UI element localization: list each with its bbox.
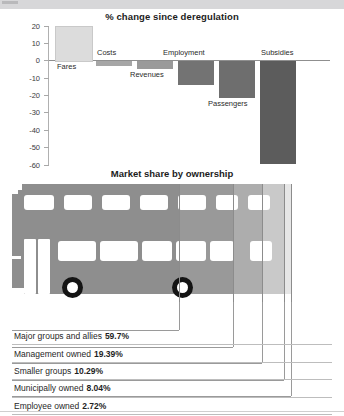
segment-divider — [291, 184, 292, 302]
legend-item-employee-owned: Employee owned 2.72% — [12, 398, 332, 415]
segment-divider — [233, 184, 234, 302]
y-tick-label: 10 — [14, 39, 40, 48]
scan-edge-strip — [0, 0, 344, 9]
bus-door-panel — [38, 239, 50, 294]
y-tick — [44, 95, 49, 96]
deregulation-bar-chart: % change since deregulation 20 10 0 -10 … — [0, 9, 344, 174]
bar-fares — [55, 26, 93, 62]
y-tick — [44, 26, 49, 27]
legend-label: Management owned — [12, 349, 91, 359]
y-tick — [44, 165, 49, 166]
bar-costs — [96, 61, 132, 66]
bus-window-upper — [216, 195, 238, 210]
y-tick-label: -40 — [14, 126, 40, 135]
bus-window-lower — [100, 241, 138, 261]
y-tick-label: -20 — [14, 91, 40, 100]
market-share-title: Market share by ownership — [0, 168, 344, 179]
bar-label-subsidies: Subsidies — [261, 48, 294, 57]
bottom-rule — [0, 411, 344, 412]
market-share-chart: Market share by ownership — [0, 168, 344, 416]
bus-window-upper — [248, 195, 270, 210]
y-tick — [44, 130, 49, 131]
bus-window-upper — [102, 195, 130, 210]
segment-divider — [284, 184, 285, 302]
bus-window-lower — [250, 241, 272, 261]
bar-employment — [178, 61, 214, 85]
bus-wheel-rear — [172, 277, 193, 298]
legend-item-municipally-owned: Municipally owned 8.04% — [12, 380, 332, 397]
bus-window-lower — [58, 241, 96, 261]
y-tick — [44, 78, 49, 79]
y-tick-label: 0 — [14, 56, 40, 65]
bar-label-fares: Fares — [57, 62, 76, 71]
bar-label-employment: Employment — [163, 48, 205, 57]
legend-label: Employee owned — [12, 401, 79, 411]
market-share-legend: Major groups and allies 59.7% Management… — [12, 328, 332, 415]
y-tick-label: -10 — [14, 74, 40, 83]
y-tick-label: 20 — [14, 22, 40, 31]
segment-divider — [179, 184, 180, 302]
legend-label: Municipally owned — [12, 383, 83, 393]
legend-value: 10.29% — [71, 366, 103, 376]
y-tick-label: -50 — [14, 143, 40, 152]
bar-label-revenues: Revenues — [130, 70, 164, 79]
legend-item-major-groups: Major groups and allies 59.7% — [12, 328, 332, 345]
bar-label-passengers: Passengers — [208, 99, 248, 108]
legend-value: 19.39% — [91, 349, 123, 359]
bar-chart-title: % change since deregulation — [0, 11, 344, 22]
legend-value: 2.72% — [79, 401, 106, 411]
legend-item-smaller-groups: Smaller groups 10.29% — [12, 363, 332, 380]
bus-door-panel — [24, 239, 36, 294]
legend-item-management-owned: Management owned 19.39% — [12, 345, 332, 362]
bar-subsidies — [260, 61, 296, 164]
legend-label: Smaller groups — [12, 366, 71, 376]
bus-window-lower — [142, 241, 172, 261]
y-tick — [44, 43, 49, 44]
legend-label: Major groups and allies — [12, 331, 102, 341]
bus-wheel-front — [62, 277, 83, 298]
bus-window-upper — [24, 195, 54, 210]
bus-pictogram — [12, 184, 292, 308]
segment-divider — [262, 184, 263, 302]
infographic-page: % change since deregulation 20 10 0 -10 … — [0, 0, 344, 416]
bus-window-upper — [140, 195, 168, 210]
legend-value: 59.7% — [102, 331, 129, 341]
bus-window-lower — [176, 241, 206, 261]
y-tick — [44, 112, 49, 113]
bus-window-upper — [64, 195, 92, 210]
bar-passengers — [219, 61, 255, 98]
legend-value: 8.04% — [83, 383, 110, 393]
bus-window-lower — [210, 241, 234, 261]
bus-window-upper — [178, 195, 206, 210]
bar-revenues — [137, 61, 173, 69]
y-tick-label: -30 — [14, 108, 40, 117]
leader-line-major-groups — [179, 302, 180, 330]
bar-label-costs: Costs — [97, 48, 116, 57]
y-tick — [44, 147, 49, 148]
y-tick — [44, 60, 49, 61]
scan-artifact — [2, 1, 18, 4]
